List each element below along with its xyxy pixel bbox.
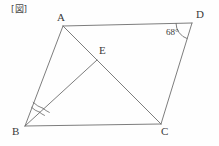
segment-AC-diagonal	[63, 26, 161, 124]
segment-DC	[161, 23, 192, 124]
segment-BE	[25, 60, 97, 126]
figure-canvas	[0, 0, 219, 146]
angle-arc-B-inner-1	[40, 112, 45, 115]
segment-AB	[25, 26, 63, 126]
vertex-label-e: E	[99, 45, 106, 56]
segment-BC	[25, 124, 161, 126]
angle-arc-B-outer-1	[33, 102, 43, 108]
vertex-label-b: B	[12, 126, 19, 137]
angle-label-d: 68°	[166, 28, 179, 37]
angle-arc-B-outer-2	[32, 107, 40, 112]
vertex-label-c: C	[161, 126, 168, 137]
vertex-label-d: D	[196, 9, 204, 20]
geometry-figure: [図] A B C D E 68°	[0, 0, 219, 146]
segment-AD	[63, 23, 192, 26]
vertex-label-a: A	[57, 12, 65, 23]
angle-arc-B-inner-2	[43, 108, 49, 112]
